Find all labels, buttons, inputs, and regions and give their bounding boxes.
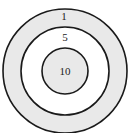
target-diagram: 1 5 10 <box>0 0 128 133</box>
inner-ring-label: 10 <box>60 65 72 77</box>
outer-ring-label: 1 <box>61 10 67 22</box>
middle-ring-label: 5 <box>62 31 68 43</box>
